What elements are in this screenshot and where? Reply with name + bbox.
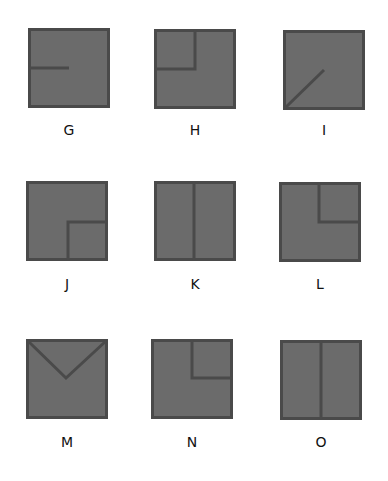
tile-label-l: L: [279, 276, 361, 292]
tile-label-g: G: [28, 122, 110, 138]
tile-label-o: O: [280, 434, 362, 450]
tile-j: [26, 181, 108, 261]
tile-h: [154, 29, 236, 109]
tile-j-figure: [26, 181, 108, 261]
tile-i: [283, 30, 365, 110]
tile-m-figure: [26, 339, 108, 419]
tile-label-m: M: [26, 434, 108, 450]
tile-h-figure: [154, 29, 236, 109]
tile-label-n: N: [151, 434, 233, 450]
tile-m: [26, 339, 108, 419]
tile-label-i: I: [283, 122, 365, 138]
tile-n: [151, 339, 233, 419]
tile-o: [280, 340, 362, 420]
tile-i-figure: [283, 30, 365, 110]
tile-l: [279, 182, 361, 262]
tile-n-figure: [151, 339, 233, 419]
tile-label-j: J: [26, 276, 108, 292]
tile-label-k: K: [154, 276, 236, 292]
tile-label-h: H: [154, 122, 236, 138]
tile-l-figure: [279, 182, 361, 262]
tile-g: [28, 28, 110, 108]
tile-k: [154, 181, 236, 261]
tile-o-figure: [280, 340, 362, 420]
tile-g-figure: [28, 28, 110, 108]
tile-k-figure: [154, 181, 236, 261]
